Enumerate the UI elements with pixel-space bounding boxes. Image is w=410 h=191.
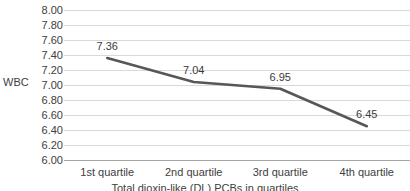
x-axis-tick-label: 3rd quartile	[253, 167, 308, 178]
line-chart: WBC 8.007.807.607.407.207.006.806.606.40…	[0, 0, 410, 191]
data-label: 7.04	[183, 65, 204, 76]
series-line-wbc	[64, 10, 410, 160]
data-label: 6.45	[356, 109, 377, 120]
y-axis-tick-label: 7.00	[23, 80, 63, 91]
x-axis-line	[64, 160, 410, 161]
y-axis-tick-label: 7.80	[23, 20, 63, 31]
y-axis-tick-label: 7.20	[23, 65, 63, 76]
y-axis-tick-label: 7.40	[23, 50, 63, 61]
x-axis-tick-label: 1st quartile	[80, 167, 134, 178]
y-axis-tick-label: 6.00	[23, 155, 63, 166]
y-axis-tick-label: 6.40	[23, 125, 63, 136]
y-axis-tick-label: 8.00	[23, 5, 63, 16]
data-label: 6.95	[270, 72, 291, 83]
x-axis-tick-label: 4th quartile	[340, 167, 394, 178]
y-axis-tick-label: 7.60	[23, 35, 63, 46]
data-label: 7.36	[97, 41, 118, 52]
y-axis-tick-label: 6.80	[23, 95, 63, 106]
y-axis-tick-label: 6.60	[23, 110, 63, 121]
y-axis-tick-label: 6.20	[23, 140, 63, 151]
x-axis-tick-label: 2nd quartile	[165, 167, 223, 178]
x-axis-title: Total dioxin-like (DL) PCBs in quartiles	[111, 183, 298, 191]
plot-area: 7.367.046.956.45	[64, 10, 410, 160]
